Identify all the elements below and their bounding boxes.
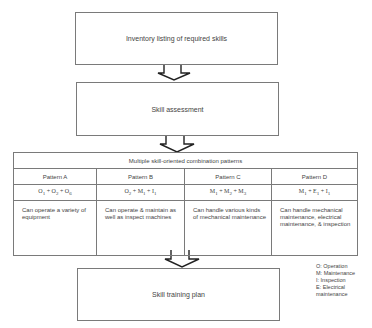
formula-term: E1 [313,188,319,194]
pattern-formula: O1 + O2 + O6 [14,185,97,201]
patterns-table-header: Multiple skill-oriented combination patt… [14,153,358,169]
down-arrow-icon [160,136,194,152]
formula-term: O2 [125,188,132,194]
step-training-box: Skill training plan [77,268,280,321]
pattern-formula: M1 + M2 + M3 [185,185,272,201]
formula-term: O1 [38,188,45,194]
pattern-description-row: Can operate a variety of equipment Can o… [14,201,358,256]
legend-item: I: Inspection [316,277,372,284]
pattern-description: Can operate & maintain as well as inspec… [97,201,185,256]
pattern-name: Pattern B [97,169,185,185]
down-arrow-icon [158,65,190,80]
pattern-formula: O2 + M1 + I1 [97,185,185,201]
step-assessment-label: Skill assessment [151,106,203,113]
formula-term: O2 [52,188,59,194]
legend-item: M: Maintenance [316,270,372,277]
step-training-label: Skill training plan [152,291,205,298]
pattern-name: Pattern A [14,169,97,185]
step-assessment-box: Skill assessment [76,82,279,136]
formula-term: I1 [326,188,331,194]
formula-term: M1 [210,188,218,194]
formula-term: M3 [238,188,246,194]
pattern-name: Pattern C [185,169,272,185]
legend-item: O: Operation [316,263,372,270]
formula-term: O6 [65,188,72,194]
pattern-description: Can handle mechanical maintenance, elect… [272,201,358,256]
formula-term: M1 [138,188,146,194]
pattern-description: Can handle various kinds of mechanical m… [185,201,272,256]
pattern-formula: M1 + E1 + I1 [272,185,358,201]
formula-term: M1 [299,188,307,194]
pattern-description: Can operate a variety of equipment [14,201,97,256]
patterns-table: Multiple skill-oriented combination patt… [13,152,358,256]
pattern-name-row: Pattern A Pattern B Pattern C Pattern D [14,169,358,185]
formula-term: I1 [152,188,157,194]
legend: O: Operation M: Maintenance I: Inspectio… [316,263,372,298]
formula-term: M2 [224,188,232,194]
pattern-name: Pattern D [272,169,358,185]
legend-item: E: Electrical maintenance [316,284,372,298]
pattern-formula-row: O1 + O2 + O6 O2 + M1 + I1 M1 + M2 + M3 M… [14,185,358,201]
